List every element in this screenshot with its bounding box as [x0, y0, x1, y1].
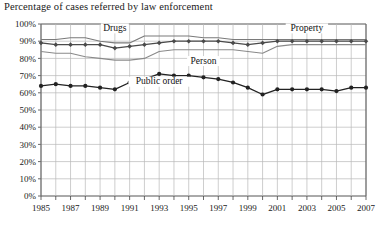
x-tick-label: 1989 — [91, 203, 110, 213]
data-point — [83, 42, 88, 47]
data-point — [172, 39, 177, 44]
y-tick-label: 10% — [20, 174, 37, 184]
data-point — [53, 42, 58, 47]
data-point — [201, 39, 206, 44]
data-point — [349, 86, 353, 90]
data-point — [290, 87, 294, 91]
data-point — [68, 84, 72, 88]
plot-area: 0%10%20%30%40%50%60%70%80%90%100%1985198… — [0, 16, 384, 229]
data-point — [127, 44, 132, 49]
y-tick-label: 70% — [20, 71, 37, 81]
y-tick-label: 90% — [20, 36, 37, 46]
chart-title: Percentage of cases referred by law enfo… — [4, 1, 213, 13]
data-point — [113, 87, 117, 91]
y-tick-label: 40% — [20, 122, 37, 132]
data-point — [364, 86, 368, 90]
y-tick-label: 30% — [20, 140, 37, 150]
data-point — [320, 87, 324, 91]
x-tick-label: 1995 — [180, 203, 199, 213]
series-label-person: Person — [191, 56, 217, 66]
y-tick-label: 80% — [20, 54, 37, 64]
data-point — [305, 87, 309, 91]
y-tick-label: 60% — [20, 88, 37, 98]
x-tick-label: 1987 — [62, 203, 81, 213]
data-point — [260, 92, 264, 96]
data-point — [113, 46, 118, 51]
x-tick-label: 2007 — [357, 203, 376, 213]
x-tick-label: 1999 — [239, 203, 258, 213]
y-tick-label: 0% — [24, 191, 37, 201]
x-tick-label: 1993 — [150, 203, 169, 213]
data-point — [68, 42, 73, 47]
data-point — [142, 42, 147, 47]
data-point — [98, 86, 102, 90]
data-point — [246, 42, 251, 47]
data-point — [83, 84, 87, 88]
y-tick-label: 50% — [20, 105, 37, 115]
y-tick-label: 100% — [15, 19, 37, 29]
line-chart-svg: 0%10%20%30%40%50%60%70%80%90%100%1985198… — [0, 16, 384, 229]
series-label-public-order: Public order — [136, 76, 184, 86]
data-point — [246, 86, 250, 90]
data-point — [334, 89, 338, 93]
series-label-drugs: Drugs — [103, 23, 127, 33]
data-point — [98, 42, 103, 47]
x-tick-label: 2001 — [268, 203, 286, 213]
data-point — [39, 84, 43, 88]
series-label-property: Property — [291, 23, 324, 33]
data-point — [216, 77, 220, 81]
x-tick-label: 1985 — [32, 203, 51, 213]
x-tick-label: 1991 — [121, 203, 139, 213]
data-point — [216, 39, 221, 44]
x-tick-label: 1997 — [209, 203, 228, 213]
data-point — [201, 75, 205, 79]
data-point — [231, 80, 235, 84]
x-tick-label: 2003 — [298, 203, 317, 213]
data-point — [186, 39, 191, 44]
chart-root: Percentage of cases referred by law enfo… — [0, 0, 384, 229]
data-point — [54, 82, 58, 86]
x-tick-label: 2005 — [327, 203, 346, 213]
y-tick-label: 20% — [20, 157, 37, 167]
data-point — [275, 87, 279, 91]
